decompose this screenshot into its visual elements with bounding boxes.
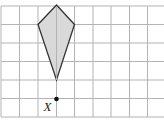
point-x-dot [54,97,59,102]
kite-grid-diagram: X [0,0,164,122]
point-x-label: X [43,99,53,114]
square-grid [1,6,164,117]
